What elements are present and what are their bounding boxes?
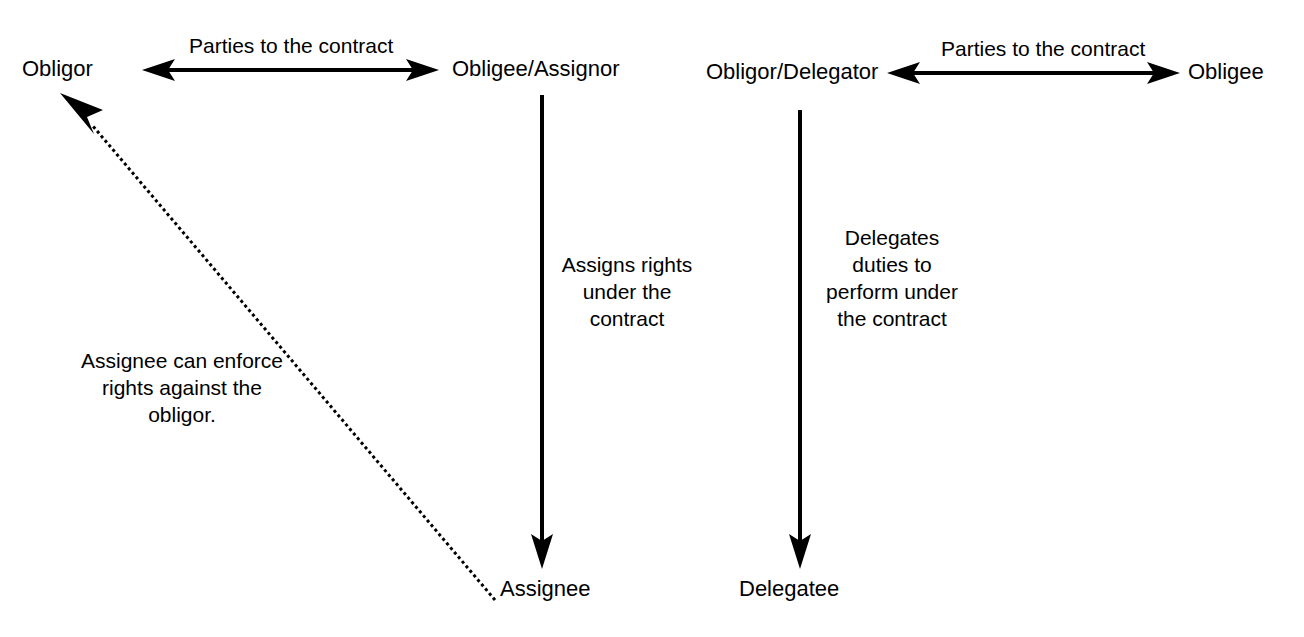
assigns-arrow xyxy=(531,95,553,569)
diagram-canvas: Obligor Obligee/Assignor Assignee Obligo… xyxy=(0,0,1304,637)
edge-label-parties-left: Parties to the contract xyxy=(189,33,393,59)
node-label-obligor-delegator: Obligor/Delegator xyxy=(706,59,878,85)
node-label-obligor-left: Obligor xyxy=(22,56,93,82)
parties-right-arrow xyxy=(887,62,1180,84)
delegates-arrow xyxy=(789,110,811,569)
edge-label-parties-right: Parties to the contract xyxy=(941,36,1145,62)
parties-left-arrow xyxy=(142,59,439,81)
note-delegates-duties: Delegates duties to perform under the co… xyxy=(818,224,966,332)
note-assignee-enforce: Assignee can enforce rights against the … xyxy=(76,347,288,428)
note-assigns-rights: Assigns rights under the contract xyxy=(552,251,702,332)
node-label-delegatee: Delegatee xyxy=(739,576,839,602)
node-label-obligee-right: Obligee xyxy=(1188,59,1264,85)
node-label-assignee: Assignee xyxy=(500,576,591,602)
enforce-arrow-head xyxy=(60,93,103,134)
node-label-obligee-assignor: Obligee/Assignor xyxy=(452,56,620,82)
